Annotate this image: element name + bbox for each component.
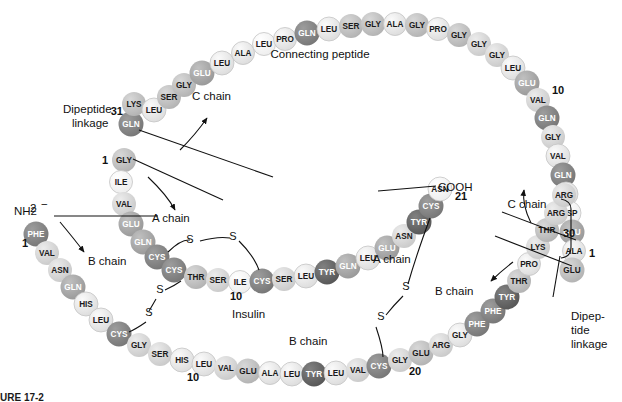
residue-label: HIS — [79, 300, 93, 309]
residue-label: PRO — [276, 35, 294, 44]
number-a21: 21 — [455, 190, 467, 202]
residue-val: VAL — [214, 356, 238, 380]
residue-label: GLY — [365, 20, 382, 29]
residue-leu: LEU — [210, 51, 234, 75]
residue-label: ALA — [235, 49, 252, 58]
number-a1: 1 — [102, 154, 108, 166]
number-c31: 31 — [111, 105, 123, 117]
residue-label: VAL — [550, 152, 566, 161]
residue-leu: LEU — [324, 361, 348, 385]
residue-label: ILE — [115, 178, 128, 187]
residue-label: LYS — [126, 100, 142, 109]
label-insulin: Insulin — [232, 308, 265, 320]
residue-label: VAL — [116, 200, 132, 209]
residue-label: PHE — [28, 230, 45, 239]
label-a-chain-left: A chain — [152, 212, 190, 224]
residue-ala: ALA — [232, 42, 255, 65]
residue-label: SER — [343, 22, 360, 31]
residue-cys: CYS — [162, 258, 187, 283]
residue-ser: SER — [148, 342, 172, 366]
residue-label: ASN — [395, 232, 412, 241]
residue-label: SER — [152, 350, 169, 359]
residue-glu: GLU — [560, 258, 585, 283]
residue-arg: ARG — [552, 183, 576, 207]
residue-label: GLY — [452, 331, 469, 340]
residue-tyr: TYR — [302, 362, 327, 387]
sulfur-label: S — [402, 280, 409, 292]
residue-label: TYR — [411, 218, 427, 227]
label-dipeptide-linkage-right-line2: tide — [571, 324, 590, 336]
residue-cys: CYS — [367, 354, 392, 379]
label-b-chain-right: B chain — [435, 285, 473, 297]
residue-label: VAL — [350, 366, 366, 375]
residue-label: GLY — [116, 156, 133, 165]
residue-label: PRO — [520, 260, 538, 269]
residue-label: ASN — [51, 266, 68, 275]
residue-leu: LEU — [294, 264, 318, 288]
residue-label: GLU — [518, 79, 535, 88]
residue-label: GLN — [134, 238, 151, 247]
label-amino-terminus-subscript: 2 — [30, 202, 36, 214]
label-dipeptide-linkage-left-line1: Dipeptide — [63, 103, 112, 115]
residue-label: ALA — [387, 20, 404, 29]
residue-circles: GLNLYSLEUSERGLYGLULEUALALEUPROGLNLEUSERG… — [24, 12, 586, 387]
residue-label: VAL — [218, 364, 234, 373]
residue-label: TYR — [319, 268, 335, 277]
residue-label: GLY — [409, 21, 426, 30]
label-connecting-peptide: Connecting peptide — [270, 48, 369, 60]
residue-label: GLY — [451, 31, 468, 40]
residue-label: ARG — [555, 191, 573, 200]
residue-label: GLY — [392, 356, 409, 365]
figure-canvas: GLNLYSLEUSERGLYGLULEUALALEUPROGLNLEUSERG… — [0, 0, 622, 402]
residue-label: GLY — [176, 81, 193, 90]
residue-label: LEU — [146, 106, 162, 115]
label-amino-terminus-charge: − — [41, 198, 48, 210]
residue-ser: SER — [206, 268, 230, 292]
residue-label: HIS — [175, 356, 189, 365]
label-b-chain-left: B chain — [88, 255, 126, 267]
residue-gly: GLY — [127, 333, 151, 357]
residue-label: ARG — [432, 341, 450, 350]
residue-label: GLN — [538, 114, 555, 123]
residue-label: SER — [276, 275, 293, 284]
label-b-chain-bottom: B chain — [289, 335, 327, 347]
sulfur-label: S — [156, 283, 163, 295]
residue-leu: LEU — [317, 17, 341, 41]
residue-label: PRO — [429, 25, 447, 34]
residue-gly: GLY — [361, 12, 385, 36]
label-c-chain-right: C chain — [508, 198, 547, 210]
residue-label: CYS — [371, 362, 388, 371]
residue-gly: GLY — [112, 148, 136, 172]
residue-label: CYS — [166, 266, 183, 275]
residue-ser: SER — [339, 14, 363, 38]
residue-ile: ILE — [110, 171, 133, 194]
label-dipeptide-linkage-left-line2: linkage — [72, 117, 108, 129]
residue-gly: GLY — [405, 13, 429, 37]
residue-label: PHE — [469, 320, 486, 329]
residue-label: CYS — [111, 330, 128, 339]
residue-label: GLU — [378, 244, 395, 253]
residue-label: ARG — [547, 209, 565, 218]
residue-label: CYS — [423, 202, 440, 211]
residue-label: THR — [511, 277, 528, 286]
residue-leu: LEU — [280, 362, 304, 386]
residue-label: TYR — [499, 293, 515, 302]
residue-label: LEU — [298, 272, 314, 281]
residue-label: LEU — [284, 370, 300, 379]
residue-label: LEU — [93, 316, 109, 325]
residue-his: HIS — [170, 348, 194, 372]
residue-label: GLU — [563, 266, 580, 275]
label-c-chain-left: C chain — [192, 90, 231, 102]
residue-label: LEU — [328, 369, 344, 378]
number-c10: 10 — [552, 84, 564, 96]
label-dipeptide-linkage-right-line1: Dipep- — [571, 310, 605, 322]
residue-glu: GLU — [236, 359, 261, 384]
residue-ala: ALA — [384, 13, 407, 36]
residue-label: SER — [161, 93, 178, 102]
residue-label: VAL — [39, 249, 55, 258]
number-c1: 1 — [589, 247, 595, 259]
sulfur-label: S — [229, 230, 236, 242]
residue-thr: THR — [184, 265, 208, 289]
residue-label: GLN — [554, 171, 571, 180]
sulfur-label: S — [186, 233, 193, 245]
